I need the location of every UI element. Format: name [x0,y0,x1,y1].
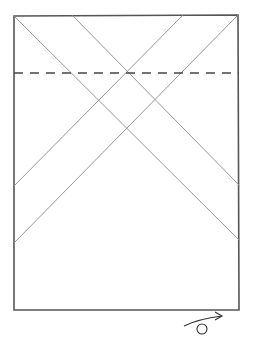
crease-2 [72,15,239,185]
turn-over-icon [184,312,222,334]
diagram-canvas [0,0,256,338]
crease-lines [14,15,239,243]
turn-over-loop [197,324,207,334]
origami-diagram [0,0,256,338]
paper-square-outline [14,15,239,310]
